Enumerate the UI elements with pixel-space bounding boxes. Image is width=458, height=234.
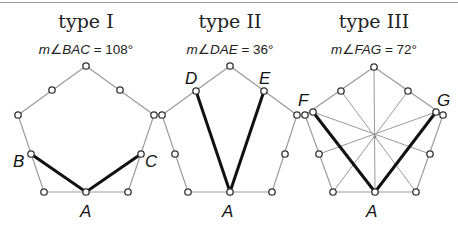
label-c: C	[145, 152, 158, 171]
label-a: A	[365, 202, 377, 221]
label-a: A	[221, 202, 233, 221]
pentagon-type-iii: F G A	[298, 64, 450, 221]
label-f: F	[298, 91, 310, 110]
label-b: B	[13, 152, 24, 171]
angle-bac	[31, 154, 141, 192]
pentagon-type-i: B C A	[13, 63, 158, 221]
label-g: G	[437, 91, 450, 110]
points	[15, 63, 157, 195]
label-e: E	[259, 69, 271, 88]
diameters	[313, 67, 436, 192]
label-d: D	[185, 69, 197, 88]
pentagon-type-ii: D E A	[159, 63, 300, 221]
label-a: A	[79, 202, 91, 221]
pentagon-diagrams: B C A D E A	[0, 0, 458, 234]
angle-dae	[196, 91, 264, 192]
points	[159, 63, 300, 195]
center-point	[374, 136, 377, 139]
